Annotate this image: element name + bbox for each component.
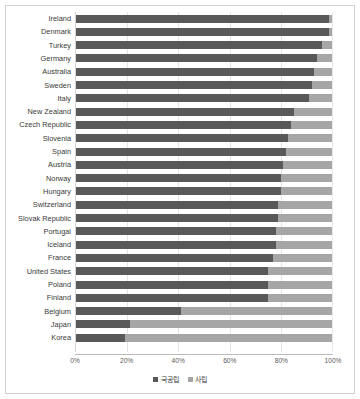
bar-segment-private xyxy=(268,294,332,302)
bar-segment-public xyxy=(76,68,314,76)
category-label-korea: Korea xyxy=(51,331,71,344)
bar-segment-private xyxy=(291,121,332,129)
bar-row: France xyxy=(76,251,332,264)
legend-swatch-private-icon xyxy=(188,377,193,382)
category-label-italy: Italy xyxy=(57,92,71,105)
bar-segment-public xyxy=(76,227,276,235)
bar-segment-public xyxy=(76,108,294,116)
x-tick-label: 80% xyxy=(275,357,288,364)
bar-segment-private xyxy=(329,28,332,36)
bar-row: Australia xyxy=(76,65,332,78)
bar-segment-private xyxy=(276,227,332,235)
bar-row: Italy xyxy=(76,92,332,105)
bar-row: Spain xyxy=(76,145,332,158)
bar-segment-private xyxy=(276,241,332,249)
legend-item-public: 국공립 xyxy=(153,374,179,384)
bar-segment-public xyxy=(76,294,268,302)
bar-segment-private xyxy=(286,148,332,156)
bar-segment-public xyxy=(76,28,329,36)
stacked-bar xyxy=(76,334,332,342)
bar-segment-private xyxy=(322,41,332,49)
bar-segment-public xyxy=(76,148,286,156)
bar-segment-private xyxy=(314,68,332,76)
bar-segment-public xyxy=(76,134,288,142)
bar-segment-public xyxy=(76,254,273,262)
stacked-bar xyxy=(76,81,332,89)
bar-row: Japan xyxy=(76,318,332,331)
bar-segment-private xyxy=(294,108,332,116)
x-axis: 0%20%40%60%80%100% xyxy=(75,354,333,366)
chart-frame: IrelandDenmarkTurkeyGermanyAustraliaSwed… xyxy=(5,5,355,394)
category-label-sweden: Sweden xyxy=(44,79,71,92)
bar-segment-public xyxy=(76,81,312,89)
category-label-new-zealand: New Zealand xyxy=(27,105,71,118)
bar-segment-public xyxy=(76,15,329,23)
bar-row: New Zealand xyxy=(76,105,332,118)
category-label-spain: Spain xyxy=(52,145,71,158)
bar-row: Ireland xyxy=(76,12,332,25)
bar-row: Turkey xyxy=(76,39,332,52)
stacked-bar xyxy=(76,267,332,275)
bar-segment-private xyxy=(283,161,332,169)
category-label-czech-republic: Czech Republic xyxy=(19,118,71,131)
bar-row: Slovak Republic xyxy=(76,212,332,225)
bar-segment-private xyxy=(125,334,332,342)
stacked-bar xyxy=(76,41,332,49)
bar-segment-private xyxy=(130,320,332,328)
chart-legend: 국공립 사립 xyxy=(6,374,354,384)
stacked-bar xyxy=(76,28,332,36)
stacked-bar xyxy=(76,174,332,182)
x-tick-label: 40% xyxy=(172,357,185,364)
category-label-france: France xyxy=(48,251,71,264)
stacked-bar xyxy=(76,54,332,62)
category-label-ireland: Ireland xyxy=(48,12,71,25)
stacked-bar xyxy=(76,187,332,195)
bar-row: Belgium xyxy=(76,305,332,318)
bar-segment-private xyxy=(288,134,332,142)
stacked-bar xyxy=(76,241,332,249)
bar-row: Germany xyxy=(76,52,332,65)
category-label-norway: Norway xyxy=(46,172,71,185)
category-label-turkey: Turkey xyxy=(49,39,71,52)
bar-row: Hungary xyxy=(76,185,332,198)
bar-segment-public xyxy=(76,320,130,328)
category-label-slovak-republic: Slovak Republic xyxy=(18,212,71,225)
bar-segment-public xyxy=(76,214,278,222)
bar-segment-public xyxy=(76,334,125,342)
stacked-bar xyxy=(76,94,332,102)
x-tick-label: 60% xyxy=(223,357,236,364)
bar-segment-private xyxy=(312,81,332,89)
category-label-denmark: Denmark xyxy=(41,25,71,38)
bar-segment-private xyxy=(329,15,332,23)
stacked-bar xyxy=(76,320,332,328)
bar-row: United States xyxy=(76,265,332,278)
bar-segment-public xyxy=(76,41,322,49)
legend-label-private: 사립 xyxy=(195,374,207,384)
bar-segment-public xyxy=(76,54,317,62)
bar-row: Korea xyxy=(76,331,332,344)
bar-row: Portugal xyxy=(76,225,332,238)
stacked-bar xyxy=(76,121,332,129)
stacked-bar xyxy=(76,294,332,302)
stacked-bar xyxy=(76,201,332,209)
bar-segment-private xyxy=(281,187,332,195)
stacked-bar xyxy=(76,227,332,235)
bar-segment-public xyxy=(76,241,276,249)
bar-segment-public xyxy=(76,307,181,315)
bar-segment-private xyxy=(268,281,332,289)
category-label-iceland: Iceland xyxy=(47,238,71,251)
legend-swatch-public-icon xyxy=(153,377,158,382)
bar-segment-public xyxy=(76,94,309,102)
bar-row: Austria xyxy=(76,158,332,171)
bar-row: Norway xyxy=(76,172,332,185)
category-label-portugal: Portugal xyxy=(43,225,71,238)
stacked-bar xyxy=(76,15,332,23)
bar-segment-private xyxy=(268,267,332,275)
bar-segment-public xyxy=(76,281,268,289)
stacked-bar xyxy=(76,307,332,315)
bar-segment-private xyxy=(317,54,332,62)
bar-row: Sweden xyxy=(76,79,332,92)
category-label-switzerland: Switzerland xyxy=(33,198,71,211)
category-label-japan: Japan xyxy=(51,318,71,331)
bar-row: Iceland xyxy=(76,238,332,251)
